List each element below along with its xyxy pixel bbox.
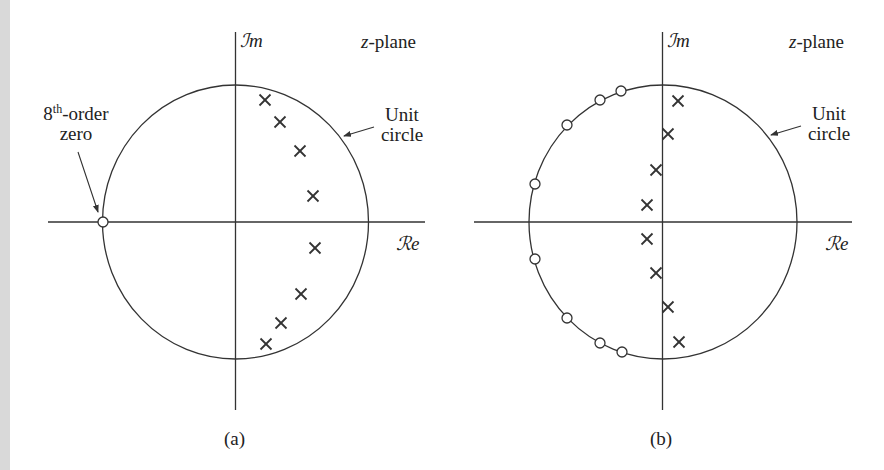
unit-circle-label-a-line2: circle [376,125,428,145]
zero-o-icon [562,313,572,323]
zero-o-icon [530,179,540,189]
pole-x-icon [663,129,674,140]
zero-o-icon [616,86,626,96]
pole-x-icon [260,95,271,106]
pole-x-icon [642,200,653,211]
zero-o-icon [562,120,572,130]
zero-o-icon [98,217,108,227]
pole-x-icon [275,117,286,128]
pole-x-icon [673,96,684,107]
caption-a: (a) [224,429,245,449]
unit-circle-label-b-line2: circle [803,124,855,144]
zero-arrow-a [78,152,98,212]
pole-x-icon [276,318,287,329]
plane-label-b: z-plane [789,32,844,52]
pole-x-icon [651,165,662,176]
unit-circle-label-a-line1: Unit [376,105,428,125]
zeros-a [98,217,108,227]
pole-x-icon [296,289,307,300]
zero-order-label-a-line2: zero [34,124,118,144]
zero-order-label-a-line1: 8th-order [34,104,118,124]
unit-circle-label-b: Unit circle [803,104,855,144]
pole-x-icon [295,146,306,157]
zero-o-icon [530,254,540,264]
plane-label-a: z-plane [361,32,416,52]
re-axis-label-a: ℛe [396,234,419,254]
pole-x-icon [663,302,674,313]
unit-circle-label-b-line1: Unit [803,104,855,124]
pole-x-icon [308,191,319,202]
zero-o-icon [595,338,605,348]
zero-o-icon [617,347,627,357]
pole-x-icon [310,243,321,254]
panel-b-z-plane [474,32,852,410]
zero-order-label-a: 8th-order zero [34,104,118,144]
im-axis-label-a: ℐm [240,31,263,51]
unit-circle-arrow-a [344,127,374,136]
plane-rest-a: -plane [368,31,415,52]
re-axis-label-b: ℛe [825,234,848,254]
unit-circle-arrow-b [771,126,801,135]
im-axis-label-b: ℐm [667,31,690,51]
pole-x-icon [642,234,653,245]
plane-rest-b: -plane [796,31,843,52]
pole-x-icon [261,339,272,350]
pole-x-icon [674,337,685,348]
pole-x-icon [651,268,662,279]
panel-a-z-plane [48,32,425,410]
pole-zero-plots [0,0,884,470]
caption-b: (b) [650,429,672,449]
unit-circle-label-a: Unit circle [376,105,428,145]
zero-o-icon [595,95,605,105]
